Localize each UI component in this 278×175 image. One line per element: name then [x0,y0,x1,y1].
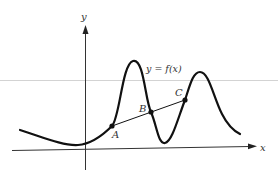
function-graph: x y A B C y = f(x) [0,0,278,175]
point-a: A [109,123,119,140]
y-axis-label: y [80,11,87,22]
function-curve [20,61,240,145]
x-axis-label: x [260,142,266,153]
y-axis-arrow-icon [83,25,89,34]
point-b-label: B [138,103,146,114]
point-c-label: C [175,87,183,98]
y-axis: y [80,11,89,170]
x-axis: x [12,142,266,153]
curve-label: y = f(x) [145,63,182,74]
point-b: B [138,103,154,115]
point-a-label: A [111,129,119,140]
x-axis-arrow-icon [248,144,257,150]
diagram-canvas: x y A B C y = f(x) [0,0,278,175]
